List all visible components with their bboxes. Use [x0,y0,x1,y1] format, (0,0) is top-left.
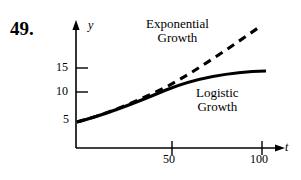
logistic-growth-label-line1: Logistic [196,86,239,100]
y-tick-label-5: 5 [63,112,69,127]
exercise-number: 49. [10,18,34,40]
logistic-growth-label-line2: Growth [196,100,239,114]
figure-container: 49. y t 15 10 5 50 100 Exponential Growt… [0,0,301,180]
exponential-growth-label: Exponential Growth [146,17,209,45]
y-axis-label: y [88,18,93,33]
x-tick-label-100: 100 [250,152,268,167]
exponential-growth-label-line2: Growth [146,31,209,45]
exponential-growth-label-line1: Exponential [146,17,209,31]
x-axis-label: t [285,140,288,155]
x-tick-label-50: 50 [163,152,175,167]
y-axis-arrowhead [72,20,79,30]
x-axis-arrowhead [275,144,285,151]
logistic-growth-label: Logistic Growth [196,86,239,114]
y-tick-label-15: 15 [56,60,68,75]
y-tick-label-10: 10 [56,84,68,99]
